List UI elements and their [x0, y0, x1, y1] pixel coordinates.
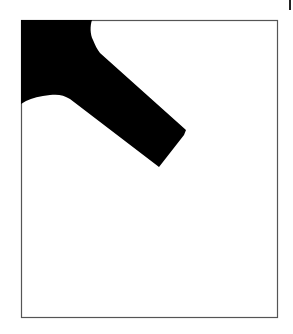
black-branch-shape [21, 20, 186, 167]
corner-tick-mark [289, 0, 291, 10]
diagram-canvas [0, 0, 293, 334]
